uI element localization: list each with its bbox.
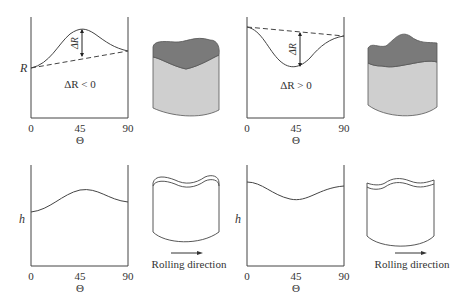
delta-r-label: ΔR xyxy=(69,37,80,50)
x-tick-90: 90 xyxy=(339,122,351,134)
plot-bottom-left: h 0 45 90 Θ xyxy=(19,165,134,294)
y-axis-label-h: h xyxy=(19,212,25,226)
delta-r-label: ΔR xyxy=(287,43,298,56)
x-tick-90: 90 xyxy=(339,270,351,282)
x-tick-45: 45 xyxy=(75,270,87,282)
cup-earing-0-90 xyxy=(153,38,219,116)
cup-earing-45 xyxy=(368,34,437,116)
x-axis-label-theta: Θ xyxy=(76,134,84,146)
x-tick-90: 90 xyxy=(123,122,135,134)
annotation-delta-positive: ΔR > 0 xyxy=(280,79,312,91)
y-axis-label-r: R xyxy=(19,61,28,75)
plot-top-left: ΔR R ΔR < 0 0 45 90 Θ xyxy=(19,17,134,146)
plot-bottom-right: h 0 45 90 Θ xyxy=(235,165,350,294)
plot-top-right: ΔR ΔR > 0 0 45 90 Θ xyxy=(244,17,350,146)
earing-diagram: ΔR R ΔR < 0 0 45 90 Θ ΔR ΔR > 0 0 45 90 … xyxy=(0,0,471,308)
rolling-direction-arrow xyxy=(395,251,427,255)
rolling-direction-arrow xyxy=(171,251,203,255)
x-tick-0: 0 xyxy=(244,122,250,134)
cup-outline-45 xyxy=(367,179,434,247)
x-tick-45: 45 xyxy=(75,122,87,134)
x-tick-45: 45 xyxy=(291,270,303,282)
y-axis-label-h: h xyxy=(235,212,241,226)
x-tick-90: 90 xyxy=(123,270,135,282)
annotation-delta-negative: ΔR < 0 xyxy=(64,78,96,90)
x-tick-0: 0 xyxy=(28,270,34,282)
rolling-direction-caption: Rolling direction xyxy=(152,258,227,270)
x-axis-label-theta: Θ xyxy=(292,134,300,146)
x-tick-0: 0 xyxy=(28,122,34,134)
x-axis-label-theta: Θ xyxy=(76,282,84,294)
x-axis-label-theta: Θ xyxy=(292,282,300,294)
x-tick-0: 0 xyxy=(244,270,250,282)
x-tick-45: 45 xyxy=(291,122,303,134)
cup-outline-0-90 xyxy=(153,176,219,242)
rolling-direction-caption: Rolling direction xyxy=(375,258,450,270)
